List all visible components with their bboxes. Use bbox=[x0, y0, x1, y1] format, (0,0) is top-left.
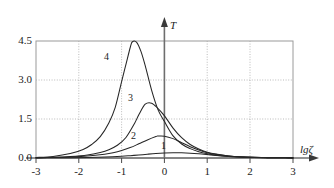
y-tick-label-0: 0.0 bbox=[6, 152, 32, 163]
chart-plot-area bbox=[0, 0, 334, 188]
x-axis-ticks bbox=[36, 158, 293, 163]
x-tick-label-0: -3 bbox=[26, 166, 46, 177]
y-axis-label: T bbox=[170, 20, 176, 31]
x-axis-label: lgζ bbox=[300, 144, 313, 155]
curve-label-3: 3 bbox=[128, 93, 133, 103]
x-tick-label-2: -1 bbox=[112, 166, 132, 177]
y-tick-label-3: 4.5 bbox=[6, 35, 32, 46]
chart-container: 0.0 1.5 3.0 4.5 -3 -2 -1 0 1 2 3 T lgζ 4… bbox=[0, 0, 334, 188]
x-tick-label-6: 3 bbox=[283, 166, 303, 177]
curve-label-4: 4 bbox=[104, 52, 109, 62]
x-tick-label-1: -2 bbox=[69, 166, 89, 177]
y-tick-label-1: 1.5 bbox=[6, 113, 32, 124]
x-tick-label-5: 2 bbox=[240, 166, 260, 177]
curve-label-1: 1 bbox=[161, 141, 166, 151]
x-tick-label-3: 0 bbox=[154, 166, 174, 177]
curve-label-2: 2 bbox=[131, 131, 136, 141]
x-tick-label-4: 1 bbox=[197, 166, 217, 177]
y-tick-label-2: 3.0 bbox=[6, 74, 32, 85]
